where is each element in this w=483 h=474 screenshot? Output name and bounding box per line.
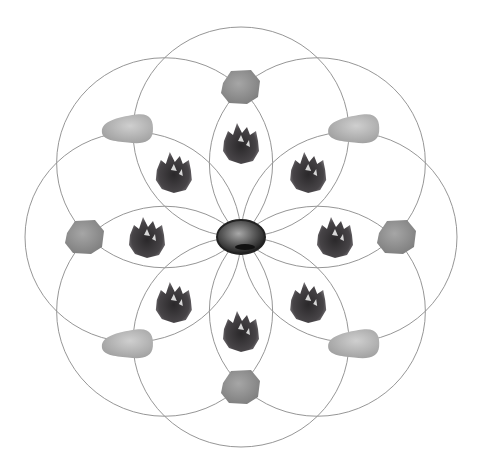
tumbled-point-bottom-left [102, 329, 153, 358]
amethyst-cluster-top [223, 123, 259, 164]
rough-stone-right [377, 220, 416, 254]
rough-stone-left [65, 220, 104, 254]
rough-stone-bottom [221, 370, 260, 404]
amethyst-cluster-right [317, 217, 353, 258]
amethyst-cluster-top-right [290, 152, 326, 193]
tumbled-point-bottom-right [328, 329, 379, 358]
amethyst-cluster-top-left [156, 152, 192, 193]
tumbled-point-top-left [102, 114, 153, 143]
amethyst-cluster-bottom-left [156, 282, 192, 323]
stones-layer [65, 70, 416, 404]
crystal-grid-diagram [0, 0, 483, 474]
amethyst-cluster-left [129, 217, 165, 258]
tumbled-point-top-right [328, 114, 379, 143]
amethyst-cluster-bottom [223, 311, 259, 352]
center-stone-shadow [235, 244, 255, 250]
rough-stone-top [221, 70, 260, 104]
amethyst-cluster-bottom-right [290, 282, 326, 323]
